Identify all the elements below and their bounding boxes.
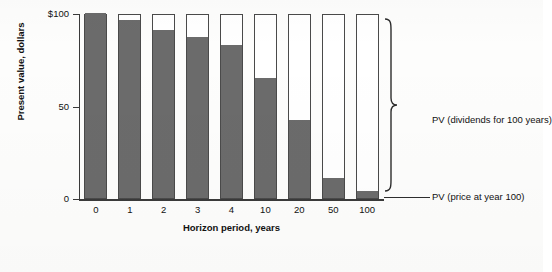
y-axis-line	[79, 14, 80, 199]
y-tick-label: $100	[48, 9, 69, 19]
bar-stack	[118, 14, 141, 199]
x-axis-line	[79, 199, 384, 201]
bar-segment-price	[221, 45, 242, 199]
y-tick-label-wrap: 0	[0, 194, 71, 204]
x-tick-label: 0	[80, 204, 112, 215]
y-tick-mark	[73, 14, 79, 15]
bar-segment-price	[357, 191, 378, 198]
bar-stack	[84, 14, 107, 199]
x-tick-label: 100	[351, 204, 383, 215]
bar-segment-price	[85, 13, 106, 198]
y-tick-label: 50	[58, 102, 69, 112]
y-tick-label-wrap: $100	[0, 9, 71, 19]
bracket-icon	[384, 18, 398, 192]
x-tick-label: 20	[283, 204, 315, 215]
annotation-price: PV (price at year 100)	[432, 191, 524, 202]
x-tick-label: 3	[182, 204, 214, 215]
bar-segment-price	[323, 178, 344, 198]
bar-segment-price	[153, 30, 174, 198]
bar-stack	[254, 14, 277, 199]
y-axis-title: Present value, dollars	[15, 0, 26, 147]
x-tick-label: 1	[114, 204, 146, 215]
y-tick-mark	[73, 107, 79, 108]
bar-stack	[186, 14, 209, 199]
bar-segment-price	[187, 37, 208, 198]
bar-stack	[356, 14, 379, 199]
bar-stack	[322, 14, 345, 199]
bar-segment-price	[255, 78, 276, 198]
leader-line-price	[384, 197, 430, 198]
annotation-dividends: PV (dividends for 100 years)	[432, 114, 552, 125]
bar-segment-price	[289, 120, 310, 198]
bar-stack	[152, 14, 175, 199]
bar-stack	[288, 14, 311, 199]
y-tick-label-wrap: 50	[0, 102, 71, 112]
x-tick-label: 2	[148, 204, 180, 215]
x-tick-label: 4	[216, 204, 248, 215]
bar-segment-price	[119, 20, 140, 198]
x-axis-title: Horizon period, years	[79, 222, 384, 233]
x-tick-label: 50	[317, 204, 349, 215]
y-tick-label: 0	[64, 194, 69, 204]
x-tick-label: 10	[249, 204, 281, 215]
bar-stack	[220, 14, 243, 199]
